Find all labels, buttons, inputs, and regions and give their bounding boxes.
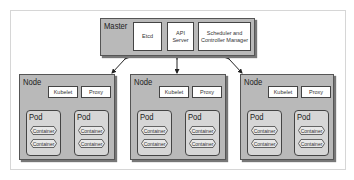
pod: Pod Container Container (185, 110, 220, 156)
node-label: Node (244, 77, 262, 87)
node-label: Node (134, 77, 152, 87)
node-2: Node Kubelet Proxy Pod Container Contain… (130, 74, 226, 160)
node-label: Node (23, 77, 41, 87)
arrow-master-node1 (112, 59, 125, 73)
container: Container (251, 139, 278, 148)
container: Container (30, 139, 57, 148)
container: Container (189, 126, 216, 135)
container: Container (30, 126, 57, 135)
etcd-box: Etcd (133, 22, 162, 51)
proxy-box: Proxy (81, 86, 111, 98)
proxy-box: Proxy (192, 86, 222, 98)
node-3: Node Kubelet Proxy Pod Container Contain… (240, 74, 334, 160)
api-server-box: API Server (167, 22, 194, 51)
container: Container (251, 126, 278, 135)
kubelet-box: Kubelet (48, 86, 78, 98)
pod: Pod Container Container (74, 110, 109, 156)
kubelet-box: Kubelet (159, 86, 189, 98)
pod: Pod Container Container (294, 110, 329, 156)
container: Container (141, 139, 168, 148)
arrow-master-node3 (229, 59, 242, 73)
pod: Pod Container Container (247, 110, 282, 156)
pod: Pod Container Container (137, 110, 172, 156)
scheduler-controller-box: Scheduler and Controller Manager (198, 22, 251, 51)
kubelet-box: Kubelet (268, 86, 298, 98)
container: Container (298, 126, 325, 135)
container: Container (141, 126, 168, 135)
container: Container (189, 139, 216, 148)
container: Container (298, 139, 325, 148)
proxy-box: Proxy (301, 86, 331, 98)
pod: Pod Container Container (26, 110, 61, 156)
container: Container (78, 139, 105, 148)
container: Container (78, 126, 105, 135)
node-1: Node Kubelet Proxy Pod Container Contain… (19, 74, 115, 160)
master-label: Master (104, 21, 127, 31)
master-box: Master Etcd API Server Scheduler and Con… (100, 18, 255, 56)
